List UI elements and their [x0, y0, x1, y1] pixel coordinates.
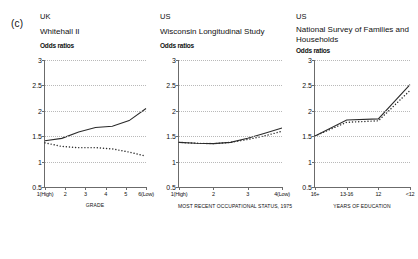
y-axis-label: Odds ratios [160, 42, 292, 49]
x-tick-mark [347, 187, 348, 190]
plot-area: 0.511.522.531(High)234(Low) [178, 60, 282, 188]
x-tick-mark [179, 187, 180, 190]
gridline [45, 136, 146, 137]
chart-panel-wisconsin: US Wisconsin Longitudinal Study Odds rat… [152, 0, 292, 259]
y-tick-label: 2.5 [32, 82, 42, 89]
y-tick-mark [176, 60, 179, 61]
gridline [45, 85, 146, 86]
gridline [45, 111, 146, 112]
chart-country: US [160, 12, 292, 21]
y-tick-label: 1 [172, 158, 176, 165]
y-tick-label: 3 [38, 57, 42, 64]
y-tick-mark [176, 85, 179, 86]
x-tick-mark [378, 187, 379, 190]
x-tick-label: 2 [64, 191, 67, 197]
gridline [45, 162, 146, 163]
x-tick-label: <12 [406, 191, 415, 197]
gridline [45, 60, 146, 61]
y-tick-label: 2.5 [302, 82, 312, 89]
y-tick-label: 1 [38, 158, 42, 165]
y-tick-label: 1.5 [32, 133, 42, 140]
plot-area: 0.511.522.531(High)23456(Low) [44, 60, 146, 188]
y-tick-label: 2 [172, 107, 176, 114]
y-tick-label: 0.5 [302, 184, 312, 191]
y-tick-mark [312, 85, 315, 86]
y-tick-label: 1.5 [166, 133, 176, 140]
y-axis-label: Odds ratios [296, 47, 418, 54]
x-tick-label: 4(Low) [274, 191, 290, 197]
x-tick-mark [315, 187, 316, 190]
y-tick-label: 2 [308, 107, 312, 114]
y-tick-label: 1 [308, 158, 312, 165]
chart-title: Whitehall II [40, 27, 152, 37]
chart-title: Wisconsin Longitudinal Study [160, 27, 280, 37]
y-tick-mark [312, 162, 315, 163]
gridline [179, 85, 282, 86]
x-tick-label: 3 [246, 191, 249, 197]
gridline [179, 111, 282, 112]
x-tick-label: 3 [84, 191, 87, 197]
y-axis-label: Odds ratios [40, 42, 152, 49]
plot-area-wrapper: 0.511.522.531(High)234(Low) MOST RECENT … [162, 60, 282, 210]
gridline [179, 136, 282, 137]
series-lines [315, 60, 410, 155]
figure-panel-c: (c) UK Whitehall II Odds ratios 0.511.52… [0, 0, 418, 259]
chart-country: UK [40, 12, 152, 21]
gridline [315, 111, 410, 112]
y-tick-label: 2 [38, 107, 42, 114]
x-tick-label: 1(High) [37, 191, 54, 197]
x-tick-mark [126, 187, 127, 190]
x-axis-title: MOST RECENT OCCUPATIONAL STATUS, 1975 [178, 203, 282, 209]
x-tick-label: 4 [104, 191, 107, 197]
x-tick-mark [146, 187, 147, 190]
chart-panel-whitehall: UK Whitehall II Odds ratios 0.511.522.53… [0, 0, 152, 259]
gridline [315, 162, 410, 163]
y-tick-mark [176, 136, 179, 137]
y-tick-label: 2.5 [166, 82, 176, 89]
y-tick-label: 3 [308, 57, 312, 64]
x-tick-mark [85, 187, 86, 190]
gridline [315, 85, 410, 86]
y-tick-mark [312, 136, 315, 137]
x-tick-label: 1(High) [171, 191, 188, 197]
chart-header: US Wisconsin Longitudinal Study Odds rat… [152, 0, 292, 49]
y-tick-mark [176, 111, 179, 112]
y-tick-mark [42, 162, 45, 163]
gridline [315, 60, 410, 61]
x-tick-mark [410, 187, 411, 190]
x-tick-mark [213, 187, 214, 190]
chart-header: US National Survey of Families and House… [292, 0, 418, 54]
x-tick-mark [65, 187, 66, 190]
x-tick-mark [106, 187, 107, 190]
x-tick-label: 12 [375, 191, 381, 197]
y-tick-mark [42, 136, 45, 137]
chart-country: US [296, 12, 418, 21]
x-tick-label: 2 [212, 191, 215, 197]
gridline [179, 60, 282, 61]
y-tick-label: 0.5 [32, 184, 42, 191]
plot-area-wrapper: 0.511.522.5316+13-1612<12 YEARS OF EDUCA… [298, 60, 410, 210]
y-tick-label: 3 [172, 57, 176, 64]
x-axis-title: GRADE [44, 202, 146, 208]
chart-panel-nsfh: US National Survey of Families and House… [292, 0, 418, 259]
x-tick-label: 13-16 [340, 191, 353, 197]
y-tick-mark [176, 162, 179, 163]
x-tick-mark [45, 187, 46, 190]
y-tick-mark [42, 111, 45, 112]
series-line-dotted [45, 143, 146, 156]
y-tick-mark [312, 111, 315, 112]
plot-area: 0.511.522.5316+13-1612<12 [314, 60, 410, 188]
y-tick-mark [312, 60, 315, 61]
x-axis-title: YEARS OF EDUCATION [314, 203, 410, 209]
x-tick-label: 5 [124, 191, 127, 197]
y-tick-label: 1.5 [302, 133, 312, 140]
chart-header: UK Whitehall II Odds ratios [0, 0, 152, 49]
x-tick-label: 16+ [311, 191, 320, 197]
x-tick-mark [248, 187, 249, 190]
chart-title: National Survey of Families and Househol… [296, 25, 416, 45]
gridline [315, 136, 410, 137]
y-tick-label: 0.5 [166, 184, 176, 191]
gridline [179, 162, 282, 163]
plot-area-wrapper: 0.511.522.531(High)23456(Low) GRADE [28, 60, 146, 210]
y-tick-mark [42, 60, 45, 61]
